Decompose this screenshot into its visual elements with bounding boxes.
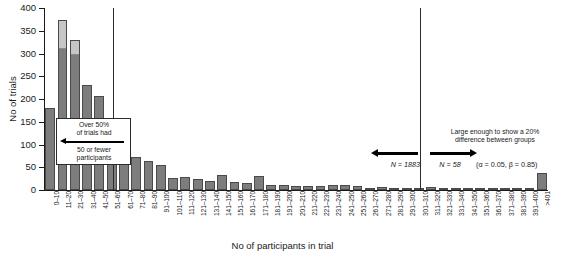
x-tick-label: 151–160 [237,191,244,216]
y-tick [39,8,44,9]
y-tick-label: 0 [31,185,36,195]
y-tick [39,31,44,32]
x-tick-label-group: 0–1011–2021–3031–4041–5051–6061–7071–808… [44,191,548,237]
x-tick-label: 231–240 [335,191,342,216]
y-tick-label: 200 [20,94,36,104]
bar [180,177,190,190]
x-tick-label: 311–320 [434,191,441,215]
y-tick-label: 150 [20,117,36,127]
bar [389,188,399,190]
x-tick-label: >401 [544,191,551,205]
bar [475,188,485,190]
x-tick-label: 371–380 [508,191,515,216]
x-tick-label: 71–80 [139,191,146,209]
right-annotation-note: Large enough to show a 20% difference be… [428,128,562,145]
x-tick-label: 21–30 [77,191,84,209]
y-tick [39,76,44,77]
x-tick-label: 391–400 [532,191,539,216]
x-tick-label: 201–210 [299,191,306,216]
x-tick-label: 161–170 [249,191,256,216]
bar [279,185,289,190]
y-tick-label: 300 [20,49,36,59]
left-annotation-line3: 50 or fewer [60,146,128,154]
left-arrow-row [60,137,128,146]
x-tick-label: 271–280 [385,191,392,216]
bar-light-segment [59,21,67,49]
x-tick-label: 291–300 [409,191,416,216]
bar [377,187,387,190]
x-tick-label: 91–100 [163,191,170,212]
bar [303,186,313,190]
x-tick-label: 31–40 [90,191,97,209]
right-annotation-line2: difference between groups [428,136,562,144]
alpha-beta-label: (α = 0.05, β = 0.85) [476,160,537,169]
x-tick-label: 341–350 [471,191,478,216]
bar [525,188,535,190]
x-tick-label: 111–120 [188,191,195,215]
y-tick [39,167,44,168]
x-axis-title: No of participants in trial [0,240,565,251]
y-tick [39,122,44,123]
x-tick-label: 381–390 [520,191,527,216]
x-tick-label: 41–50 [102,191,109,209]
bar [451,188,461,190]
bar [168,178,178,190]
x-tick-label: 171–180 [262,191,269,216]
bar [353,186,363,190]
n-left-group: N = 1883 [372,148,422,170]
y-tick-label: 50 [25,163,36,173]
left-arrow-icon [66,141,124,143]
x-tick-label: 241–250 [348,191,355,216]
x-tick-label: 321–330 [446,191,453,216]
bar [266,185,276,190]
bar [144,161,154,190]
bar [217,175,227,190]
y-tick [39,54,44,55]
bar-light-segment [71,41,79,56]
bar [131,157,141,190]
bar [230,182,240,190]
left-annotation-line1: Over 50% [60,121,128,129]
chart-figure: No of trials 050100150200250300350400 0–… [0,0,565,258]
bar [328,185,338,190]
x-tick-label: 81–90 [151,191,158,209]
x-tick-label: 11–20 [65,191,72,208]
x-tick-label: 301–310 [422,191,429,216]
bar [156,165,166,190]
bar [537,173,547,190]
x-tick-label: 261–270 [372,191,379,216]
n-left-label: N = 1883 [372,160,420,169]
x-tick-label: 211–220 [311,191,318,215]
x-tick-label: 251–260 [360,191,367,216]
bar [500,188,510,190]
bar [402,188,412,190]
y-tick-label: 250 [20,72,36,82]
bar [205,181,215,190]
x-tick-label: 101–110 [176,191,183,215]
x-tick-label: 361–370 [495,191,502,216]
right-annotation-line1: Large enough to show a 20% [428,128,562,136]
bar [488,188,498,190]
x-tick-label: 0–10 [53,191,60,205]
x-tick-label: 351–360 [483,191,490,216]
x-tick-label: 51–60 [114,191,121,209]
left-annotation-line2: of trials had [60,129,128,137]
bar [439,188,449,190]
bar [340,185,350,190]
n-right-label: N = 58 [428,160,472,169]
y-tick [39,99,44,100]
y-tick [39,145,44,146]
x-tick-label: 131–140 [213,191,220,216]
bar [193,179,203,190]
x-tick-label: 221–230 [323,191,330,216]
x-tick-label: 281–290 [397,191,404,216]
bar [242,183,252,190]
bar [70,40,80,190]
right-pointing-arrow-icon [430,152,470,155]
bar [45,108,55,190]
left-annotation-line4: participants [60,154,128,162]
y-axis-title: No of trials [7,76,18,121]
x-tick-label: 61–70 [127,191,134,209]
bar [254,176,264,190]
bar [316,186,326,190]
